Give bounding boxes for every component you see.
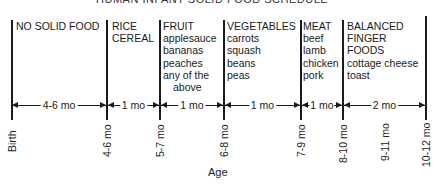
food-item: toast — [347, 69, 418, 81]
axis-label: Age — [208, 166, 228, 178]
stage-vegetables: VEGETABLES carrots squash beans peas — [227, 20, 296, 81]
food-item: beans — [227, 57, 296, 69]
duration-label: 1 mo — [249, 99, 276, 111]
tick-label: 8-10 mo — [337, 124, 349, 163]
food-item: above — [163, 81, 217, 93]
duration-label: 4-6 mo — [41, 99, 78, 111]
duration-arrow: 1 mo — [302, 99, 342, 111]
food-item: squash — [227, 44, 296, 56]
duration-arrow: 4-6 mo — [12, 99, 106, 111]
boundary-10-12mo — [425, 16, 427, 120]
food-item: pork — [303, 69, 339, 81]
food-item: chicken — [303, 57, 339, 69]
stage-no-solid-food: NO SOLID FOOD — [16, 20, 99, 32]
food-item: peaches — [163, 57, 217, 69]
food-item: carrots — [227, 32, 296, 44]
tick-label: 7-9 mo — [295, 124, 307, 157]
tick-label: 5-7 mo — [154, 124, 166, 157]
stage-heading: VEGETABLES — [227, 20, 296, 32]
duration-arrow: 1 mo — [225, 99, 300, 111]
duration-arrow: 2 mo — [344, 99, 425, 111]
stage-heading-line2: CEREAL — [112, 32, 154, 44]
food-item: peas — [227, 69, 296, 81]
stage-heading: NO SOLID FOOD — [16, 20, 99, 32]
duration-label: 1 mo — [309, 99, 334, 111]
duration-label: 1 mo — [120, 99, 147, 111]
food-item: applesauce — [163, 32, 217, 44]
duration-arrow: 1 mo — [161, 99, 223, 111]
food-item: cottage cheese — [347, 57, 418, 69]
food-item: any of the — [163, 69, 217, 81]
duration-arrow: 1 mo — [108, 99, 159, 111]
duration-label: 1 mo — [178, 99, 205, 111]
stage-heading-line3: FOODS — [347, 44, 418, 56]
stage-fruit: FRUIT applesauce bananas peaches any of … — [163, 20, 217, 93]
stage-heading: BALANCED — [347, 20, 418, 32]
stage-meat: MEAT beef lamb chicken pork — [303, 20, 339, 81]
tick-label: 10-12 mo — [420, 123, 432, 167]
food-item: beef — [303, 32, 339, 44]
tick-label: 6-8 mo — [218, 124, 230, 157]
stage-heading: MEAT — [303, 20, 339, 32]
stage-rice-cereal: RICE CEREAL — [112, 20, 154, 44]
stage-balanced-finger-foods: BALANCED FINGER FOODS cottage cheese toa… — [347, 20, 418, 81]
stage-heading: RICE — [112, 20, 154, 32]
food-item: bananas — [163, 44, 217, 56]
duration-label: 2 mo — [371, 99, 398, 111]
stage-heading-line2: FINGER — [347, 32, 418, 44]
tick-label: Birth — [6, 130, 18, 152]
diagram-title: HUMAN INFANT SOLID FOOD SCHEDULE — [96, 0, 328, 5]
tick-label: 9-11 mo — [379, 123, 391, 161]
tick-label: 4-6 mo — [101, 124, 113, 157]
food-item: lamb — [303, 44, 339, 56]
stage-heading: FRUIT — [163, 20, 217, 32]
